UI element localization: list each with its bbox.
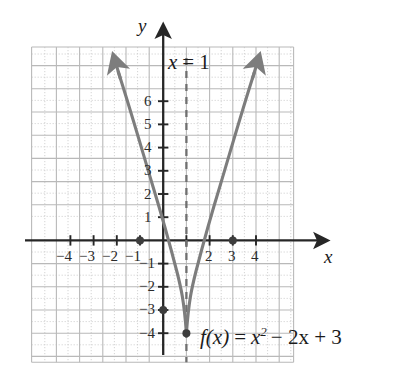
y-tick-label-4: 4 (144, 140, 152, 155)
graph-figure: y x 6 5 4 3 2 1 −1 −2 −3 −4 −4 −3 −2 −1 … (0, 0, 397, 381)
x-tick-label-neg3: −3 (79, 249, 95, 264)
y-tick-label-neg2: −2 (139, 279, 155, 294)
y-tick-label-6: 6 (144, 94, 152, 109)
axis-of-symmetry-label-value: 1 (199, 50, 210, 74)
point-left-x-intercept (136, 236, 144, 244)
y-tick-label-neg4: −4 (139, 326, 155, 341)
x-axis-label: x (324, 247, 332, 266)
function-equation-label: f(x)=x2− 2x + 3 (200, 325, 342, 348)
y-tick-label-neg3: −3 (139, 302, 155, 317)
point-right-x-intercept (229, 236, 237, 244)
axis-of-symmetry-label: x=1 (168, 52, 210, 73)
y-tick-label-3: 3 (144, 163, 152, 178)
function-equation-x: x (251, 325, 260, 349)
x-tick-label-3: 3 (228, 249, 236, 264)
x-tick-label-neg4: −4 (56, 249, 72, 264)
axis-of-symmetry-label-var: x (168, 50, 177, 74)
function-equation-exponent: 2 (260, 324, 267, 339)
y-axis-label: y (138, 16, 146, 35)
point-vertex (182, 329, 190, 337)
function-equation-rest: − 2x + 3 (271, 325, 342, 349)
x-tick-label-4: 4 (251, 249, 259, 264)
x-tick-label-2: 2 (205, 249, 213, 264)
x-tick-label-neg1: −1 (125, 249, 141, 264)
y-tick-label-5: 5 (144, 117, 152, 132)
axis-of-symmetry-label-equals: = (182, 50, 194, 74)
y-tick-label-1: 1 (144, 210, 152, 225)
point-y-intercept (159, 306, 167, 314)
y-tick-label-2: 2 (144, 187, 152, 202)
function-equation-equals: = (234, 325, 246, 349)
function-equation-fx: f(x) (200, 325, 229, 349)
y-tick-label-neg1: −1 (139, 256, 155, 271)
x-tick-label-neg2: −2 (102, 249, 118, 264)
